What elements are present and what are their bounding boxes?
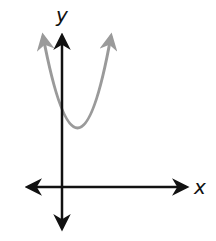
y-axis-label: y (55, 3, 69, 27)
parabola-graph: y x (0, 0, 216, 241)
parabola-curve (43, 36, 111, 128)
x-axis-label: x (193, 175, 206, 199)
